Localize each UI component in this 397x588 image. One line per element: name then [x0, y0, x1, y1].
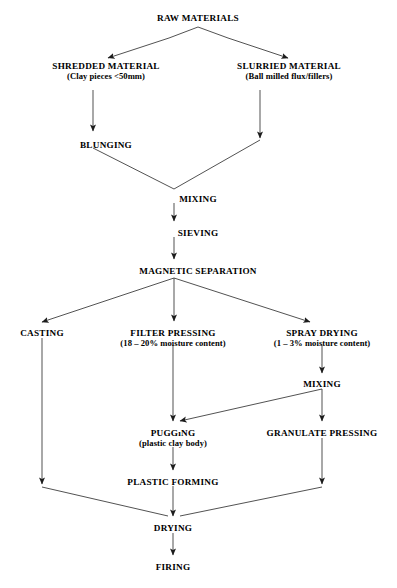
- flowchart-canvas: RAW MATERIALS SHREDDED MATERIAL (Clay pi…: [0, 0, 397, 588]
- node-shredded-material: SHREDDED MATERIAL (Clay pieces <50mm): [52, 62, 159, 82]
- edge-granulate-to-drying: [180, 487, 322, 516]
- node-granulate-pressing: GRANULATE PRESSING: [267, 429, 378, 439]
- node-casting-title: CASTING: [20, 329, 64, 339]
- node-pugging-title: PUGGıNG: [139, 429, 207, 439]
- node-shredded-material-sub: (Clay pieces <50mm): [52, 72, 159, 81]
- node-plastic-forming: PLASTIC FORMING: [127, 478, 218, 488]
- node-filter-pressing-sub: (18 – 20% moisture content): [120, 339, 225, 348]
- node-spray-drying-title: SPRAY DRYING: [274, 329, 371, 339]
- edge-magnetic-to-casting: [42, 278, 174, 322]
- node-pugging: PUGGıNG (plastic clay body): [139, 429, 207, 449]
- node-casting: CASTING: [20, 329, 64, 339]
- node-firing-title: FIRING: [156, 563, 191, 573]
- edge-raw-to-shredded: [108, 27, 198, 58]
- node-plastic-forming-title: PLASTIC FORMING: [127, 478, 218, 488]
- node-sieving: SIEVING: [178, 229, 219, 239]
- flowchart-connectors: [0, 0, 397, 588]
- node-mixing-2-title: MIXING: [303, 380, 341, 390]
- edge-magnetic-to-spray: [174, 278, 310, 322]
- node-spray-drying: SPRAY DRYING (1 – 3% moisture content): [274, 329, 371, 349]
- bottom-caption: [2, 578, 395, 588]
- node-mixing-2: MIXING: [303, 380, 341, 390]
- node-magnetic-separation: MAGNETIC SEPARATION: [139, 267, 256, 277]
- node-magnetic-separation-title: MAGNETIC SEPARATION: [139, 267, 256, 277]
- node-mixing-1: MIXING: [179, 195, 217, 205]
- node-drying-title: DRYING: [154, 524, 192, 534]
- edge-raw-to-slurried: [198, 27, 288, 58]
- node-slurried-material: SLURRIED MATERIAL (Ball milled flux/fill…: [237, 62, 341, 82]
- edge-mixing2-to-pugging: [180, 389, 322, 421]
- node-granulate-pressing-title: GRANULATE PRESSING: [267, 429, 378, 439]
- node-raw-materials: RAW MATERIALS: [157, 14, 239, 24]
- node-drying: DRYING: [154, 524, 192, 534]
- node-filter-pressing: FILTER PRESSING (18 – 20% moisture conte…: [120, 329, 225, 349]
- node-slurried-material-title: SLURRIED MATERIAL: [237, 62, 341, 72]
- node-filter-pressing-title: FILTER PRESSING: [120, 329, 225, 339]
- node-blunging: BLUNGING: [80, 141, 132, 151]
- node-spray-drying-sub: (1 – 3% moisture content): [274, 339, 371, 348]
- edge-blunging-to-mixing: [93, 148, 174, 189]
- edge-down-to-mixing-right: [174, 140, 260, 189]
- node-raw-materials-title: RAW MATERIALS: [157, 14, 239, 24]
- edge-casting-to-drying: [42, 487, 168, 516]
- node-blunging-title: BLUNGING: [80, 141, 132, 151]
- node-firing: FIRING: [156, 563, 191, 573]
- node-pugging-sub: (plastic clay body): [139, 439, 207, 448]
- node-mixing-1-title: MIXING: [179, 195, 217, 205]
- node-slurried-material-sub: (Ball milled flux/fillers): [237, 72, 341, 81]
- node-shredded-material-title: SHREDDED MATERIAL: [52, 62, 159, 72]
- node-sieving-title: SIEVING: [178, 229, 219, 239]
